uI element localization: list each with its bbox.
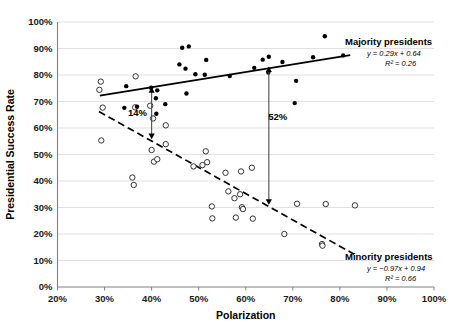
data-point-minority — [282, 231, 287, 236]
xtick-label-100%: 100% — [422, 293, 447, 304]
x-axis-title: Polarization — [216, 309, 276, 321]
legend-equation-majority: y = 0.29x + 0.64 — [366, 49, 421, 58]
gap-52-label: 52% — [268, 111, 288, 122]
data-point-minority — [131, 182, 136, 187]
data-point-minority — [226, 189, 231, 194]
data-point-minority — [210, 216, 215, 221]
data-point-majority — [177, 62, 181, 66]
data-point-majority — [323, 34, 327, 38]
data-point-minority — [97, 87, 102, 92]
data-point-majority — [155, 88, 159, 92]
data-point-majority — [341, 53, 345, 57]
data-point-majority — [122, 106, 126, 110]
legend-r2-majority: R² = 0.26 — [385, 59, 417, 68]
ytick-label-0%: 0% — [39, 281, 53, 292]
legend-equation-minority: y = −0.97x + 0.94 — [366, 264, 425, 273]
ytick-labels: 0%10%20%30%40%50%60%70%80%90%100% — [28, 16, 53, 292]
data-point-minority — [191, 164, 196, 169]
ytick-label-10%: 10% — [33, 255, 53, 266]
data-point-minority — [163, 123, 168, 128]
ytick-label-60%: 60% — [33, 122, 53, 133]
data-point-minority — [203, 149, 208, 154]
data-point-minority — [98, 79, 103, 84]
data-point-majority — [154, 111, 158, 115]
ytick-label-90%: 90% — [33, 43, 53, 54]
ytick-label-40%: 40% — [33, 175, 53, 186]
data-point-minority — [250, 216, 255, 221]
xtick-label-40%: 40% — [142, 293, 162, 304]
xtick-label-80%: 80% — [330, 293, 350, 304]
legend-title-majority: Majority presidents — [345, 36, 432, 47]
data-point-majority — [204, 58, 208, 62]
data-point-minority — [204, 159, 209, 164]
data-point-minority — [99, 138, 104, 143]
data-point-minority — [155, 157, 160, 162]
data-point-majority — [260, 57, 264, 61]
data-point-minority — [163, 141, 168, 146]
data-point-majority — [124, 84, 128, 88]
data-point-majority — [180, 46, 184, 50]
ytick-label-100%: 100% — [28, 16, 53, 27]
ytick-label-30%: 30% — [33, 202, 53, 213]
data-point-majority — [193, 72, 197, 76]
data-point-minority — [209, 204, 214, 209]
data-point-majority — [163, 102, 167, 106]
data-point-minority — [323, 201, 328, 206]
legend-r2-minority: R² = 0.66 — [385, 274, 417, 283]
data-point-majority — [184, 91, 188, 95]
data-point-majority — [294, 79, 298, 83]
xtick-label-70%: 70% — [283, 293, 303, 304]
data-point-minority — [249, 165, 254, 170]
xtick-label-50%: 50% — [189, 293, 209, 304]
xtick-labels: 20%30%40%50%60%70%80%90%100% — [48, 287, 447, 304]
legend-layer: Majority presidentsy = 0.29x + 0.64R² = … — [345, 36, 433, 283]
data-point-majority — [267, 55, 271, 59]
xtick-label-30%: 30% — [95, 293, 115, 304]
data-point-minority — [223, 170, 228, 175]
legend-title-minority: Minority presidents — [345, 251, 433, 262]
gap-52-head-down — [266, 199, 272, 205]
ytick-label-20%: 20% — [33, 228, 53, 239]
data-point-minority — [352, 203, 357, 208]
data-point-majority — [311, 55, 315, 59]
y-axis-title: Presidential Success Rate — [4, 89, 16, 220]
ytick-label-80%: 80% — [33, 69, 53, 80]
data-point-minority — [240, 206, 245, 211]
gap-14-label: 14% — [128, 107, 148, 118]
data-point-minority — [233, 215, 238, 220]
data-point-majority — [292, 101, 296, 105]
xtick-label-90%: 90% — [377, 293, 397, 304]
data-point-minority — [294, 201, 299, 206]
data-point-minority — [232, 196, 237, 201]
ytick-label-50%: 50% — [33, 149, 53, 160]
minority-trend — [99, 112, 354, 255]
chart-container: 0%10%20%30%40%50%60%70%80%90%100% 20%30%… — [0, 0, 457, 328]
xtick-label-60%: 60% — [236, 293, 256, 304]
data-point-minority — [130, 175, 135, 180]
data-point-minority — [237, 192, 242, 197]
xtick-label-20%: 20% — [48, 293, 68, 304]
data-point-minority — [320, 243, 325, 248]
data-point-minority — [133, 74, 138, 79]
data-point-minority — [100, 105, 105, 110]
data-point-majority — [154, 96, 158, 100]
data-point-majority — [252, 66, 256, 70]
ytick-label-70%: 70% — [33, 96, 53, 107]
data-point-minority — [149, 147, 154, 152]
data-points-minority — [97, 74, 358, 249]
data-point-majority — [228, 74, 232, 78]
data-point-majority — [183, 66, 187, 70]
scatter-plot: 0%10%20%30%40%50%60%70%80%90%100% 20%30%… — [0, 0, 457, 328]
data-point-majority — [280, 60, 284, 64]
data-point-majority — [187, 44, 191, 48]
gap-14-head-down — [149, 134, 155, 140]
data-point-majority — [203, 73, 207, 77]
data-point-minority — [238, 169, 243, 174]
